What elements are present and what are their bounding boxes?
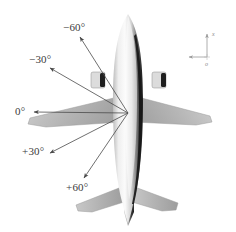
axis-label-origin: o: [205, 61, 208, 67]
figure-canvas: −60° −30° 0° +30° +60° x o: [0, 0, 236, 232]
aircraft-angle-diagram: [0, 0, 236, 232]
engine-right: [152, 72, 166, 88]
label-angle-minus60: −60°: [63, 22, 85, 33]
axis-label-vertical: x: [212, 31, 215, 37]
engine-left: [91, 72, 105, 88]
wing-left: [28, 96, 122, 127]
label-angle-zero: 0°: [15, 106, 25, 117]
stabilizer-right: [132, 186, 178, 211]
axes-indicator: [189, 34, 210, 60]
axis-origin-tick: [204, 54, 210, 60]
aircraft-silhouette: [28, 14, 212, 226]
label-angle-plus30: +30°: [22, 146, 44, 157]
label-angle-plus60: +60°: [66, 182, 88, 193]
label-angle-minus30: −30°: [29, 54, 51, 65]
wing-right: [134, 96, 212, 125]
